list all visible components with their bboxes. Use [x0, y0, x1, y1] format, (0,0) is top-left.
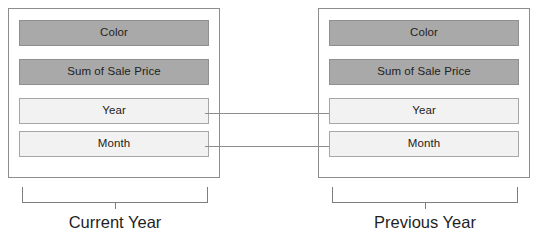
bracket-tick — [115, 203, 116, 209]
bracket-arms — [332, 187, 518, 203]
group-caption-previous-year: Previous Year — [332, 212, 518, 232]
field-pill-label: Sum of Sale Price — [377, 66, 471, 78]
field-pill-sum-of-sale-price[interactable]: Sum of Sale Price — [19, 59, 209, 85]
field-pill-label: Sum of Sale Price — [67, 66, 161, 78]
field-pill-label: Year — [412, 105, 436, 117]
connector-line-year — [205, 113, 329, 114]
field-pill-color[interactable]: Color — [19, 20, 209, 46]
group-caption-current-year: Current Year — [22, 212, 208, 232]
connector-line-month — [205, 146, 329, 147]
field-pill-label: Month — [98, 138, 130, 150]
field-pill-year[interactable]: Year — [19, 98, 209, 124]
bracket-arms — [22, 187, 208, 203]
field-pill-label: Month — [408, 138, 440, 150]
bracket-current-year — [22, 187, 208, 203]
field-pill-label: Color — [100, 27, 128, 39]
field-pill-color[interactable]: Color — [329, 20, 519, 46]
field-group-previous-year[interactable]: Color Sum of Sale Price Year Month — [318, 8, 530, 178]
field-group-current-year[interactable]: Color Sum of Sale Price Year Month — [8, 8, 220, 178]
field-pill-month[interactable]: Month — [19, 131, 209, 157]
clipped-heading-remnant — [0, 0, 542, 1]
bracket-tick — [425, 203, 426, 209]
bracket-previous-year — [332, 187, 518, 203]
field-pill-year[interactable]: Year — [329, 98, 519, 124]
field-pill-label: Year — [102, 105, 126, 117]
field-pill-sum-of-sale-price[interactable]: Sum of Sale Price — [329, 59, 519, 85]
field-pill-label: Color — [410, 27, 438, 39]
field-pill-month[interactable]: Month — [329, 131, 519, 157]
